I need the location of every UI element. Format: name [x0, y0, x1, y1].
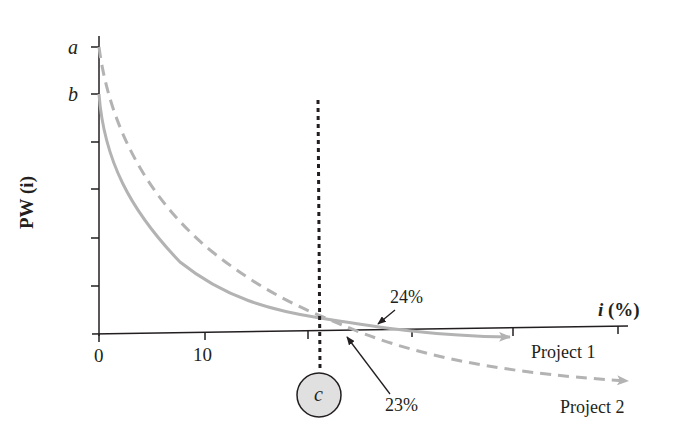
- y-ticks: [91, 47, 99, 286]
- crossover-dotted-line: [318, 100, 320, 368]
- x-axis-title: i (%): [598, 300, 640, 319]
- project1-label: Project 1: [531, 343, 596, 361]
- project1-curve: [99, 94, 510, 337]
- x-tick-label-10: 10: [193, 345, 212, 364]
- project2-label: Project 2: [560, 398, 625, 416]
- y-tick-label-a: a: [68, 37, 78, 57]
- crossover-label: c: [314, 384, 323, 404]
- y-axis-title: PW (i): [17, 168, 36, 238]
- irr1-arrow: [378, 310, 395, 324]
- irr-project1-label: 24%: [390, 288, 423, 306]
- y-axis-title-text: PW (i): [16, 176, 37, 229]
- project2-curve: [99, 47, 628, 381]
- x-axis: [92, 326, 628, 334]
- y-tick-label-b: b: [68, 84, 78, 104]
- irr-project2-label: 23%: [385, 396, 418, 414]
- irr2-arrow: [347, 337, 390, 394]
- x-axis-unit: (%): [603, 299, 639, 320]
- x-tick-label-0: 0: [94, 346, 104, 365]
- x-ticks: [99, 326, 618, 342]
- pw-chart: [0, 0, 682, 444]
